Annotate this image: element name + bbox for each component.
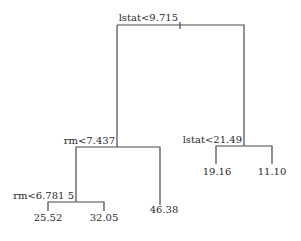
edge-root-right bbox=[180, 25, 244, 146]
leaf-value: 19.16 bbox=[203, 166, 232, 177]
leaf-value: 11.10 bbox=[258, 166, 287, 177]
left-split-label: rm<7.437 bbox=[64, 135, 115, 146]
right-split-label: lstat<21.49 bbox=[183, 134, 242, 145]
leaf-value: 25.52 bbox=[34, 212, 63, 223]
left-left-split-label: rm<6.781 5 bbox=[13, 190, 74, 201]
regression-tree-diagram: lstat<9.715 rm<7.437 rm<6.781 5 25.52 32… bbox=[0, 0, 301, 241]
node-right: lstat<21.49 bbox=[183, 134, 272, 164]
edge-root-left bbox=[117, 25, 180, 147]
node-left-left: rm<6.781 5 bbox=[13, 190, 104, 211]
node-root: lstat<9.715 bbox=[117, 12, 244, 147]
edge-left-branches bbox=[76, 147, 160, 205]
leaf-value: 46.38 bbox=[150, 204, 179, 215]
leaf-value: 32.05 bbox=[90, 212, 119, 223]
node-left: rm<7.437 bbox=[64, 135, 160, 205]
root-split-label: lstat<9.715 bbox=[119, 12, 178, 23]
edge-left-left-branches bbox=[48, 202, 104, 211]
edge-right-branches bbox=[216, 146, 272, 164]
